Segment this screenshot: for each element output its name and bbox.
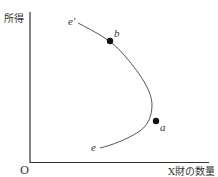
diagram-canvas bbox=[0, 0, 218, 177]
x-axis-label: X財の数量 bbox=[168, 167, 215, 177]
curve-end-label: e′ bbox=[68, 16, 75, 27]
point-a-marker bbox=[153, 118, 159, 124]
point-b-label: b bbox=[114, 28, 120, 39]
y-axis-label: 所得 bbox=[4, 14, 24, 24]
point-a-label: a bbox=[160, 122, 166, 133]
point-b-marker bbox=[107, 38, 113, 44]
curve-start-label: e bbox=[91, 142, 96, 153]
income-consumption-curve bbox=[78, 23, 152, 148]
origin-label: O bbox=[20, 165, 29, 176]
